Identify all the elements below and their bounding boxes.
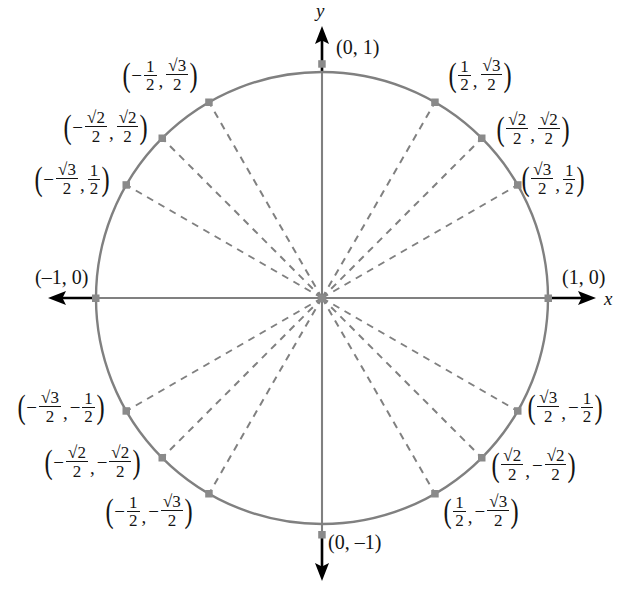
minus-sign: − (131, 66, 142, 85)
fraction-root3-over-2: √3 2 (531, 162, 553, 198)
point-label-neg1-0: (–1, 0) (35, 266, 88, 289)
point-label-1-0: (1, 0) (562, 266, 605, 289)
point-label-0-neg1: (0, –1) (328, 531, 381, 554)
point-label-30: ( √3 2 , 1 2 ) (521, 162, 586, 198)
paren-open: ( (492, 451, 500, 478)
y-axis-label: y (316, 0, 324, 22)
fraction-one-half: 1 2 (458, 58, 471, 94)
fraction-root2-over-2: √2 2 (85, 110, 107, 146)
point-marker-120 (205, 99, 213, 107)
point-marker-90 (318, 60, 326, 67)
paren-close: ) (190, 61, 198, 88)
minus-sign: − (568, 398, 579, 417)
fraction-one-half: 1 2 (82, 390, 95, 426)
point-marker-210 (123, 407, 131, 415)
fraction-one-half: 1 2 (127, 494, 140, 530)
fraction-one-half: 1 2 (453, 494, 466, 530)
point-marker-135 (159, 135, 167, 143)
comma: , (90, 458, 95, 477)
comma: , (525, 461, 530, 480)
point-label-0-1: (0, 1) (336, 36, 379, 59)
paren-open: ( (522, 165, 530, 192)
fraction-root3-over-2: √3 2 (166, 58, 188, 94)
origin-marker (318, 295, 326, 303)
point-label-300: ( 1 2 , − √3 2 ) (443, 494, 519, 530)
point-marker-60 (431, 99, 439, 107)
fraction-root3-over-2: √3 2 (537, 390, 559, 426)
paren-open: ( (444, 497, 452, 524)
dashed-radius-240 (209, 298, 322, 494)
fraction-root2-over-2: √2 2 (117, 110, 139, 146)
minus-sign: − (43, 170, 54, 189)
dashed-radius-225 (162, 298, 322, 458)
fraction-root2-over-2: √2 2 (501, 448, 523, 484)
point-label-240: ( − 1 2 , − √3 2 ) (105, 494, 193, 530)
paren-open: ( (45, 448, 53, 475)
point-label-60: ( 1 2 , √3 2 ) (448, 58, 513, 94)
minus-sign: − (475, 502, 486, 521)
comma: , (468, 507, 473, 526)
point-marker-0 (545, 295, 553, 303)
paren-open: ( (497, 115, 505, 142)
comma: , (63, 403, 68, 422)
fraction-root3-over-2: √3 2 (161, 494, 183, 530)
paren-close: ) (511, 497, 519, 524)
fraction-root3-over-2: √3 2 (481, 58, 503, 94)
paren-close: ) (102, 165, 110, 192)
point-marker-180 (92, 295, 100, 303)
minus-sign: − (114, 502, 125, 521)
comma: , (142, 507, 147, 526)
fraction-one-half: 1 2 (563, 162, 576, 198)
point-label-315: ( √2 2 , − √2 2 ) (491, 448, 577, 484)
point-label-120: ( − 1 2 , √3 2 ) (122, 58, 198, 94)
fraction-root2-over-2: √2 2 (66, 445, 88, 481)
paren-close: ) (184, 497, 192, 524)
paren-close: ) (133, 448, 141, 475)
paren-open: ( (106, 497, 114, 524)
point-label-210: ( − √3 2 , − 1 2 ) (17, 390, 105, 426)
dashed-radius-210 (126, 298, 322, 411)
fraction-root2-over-2: √2 2 (545, 448, 567, 484)
unit-circle-figure: y x (0, 1) (1, 0) (–1, 0) (0, –1) ( 1 2 … (0, 0, 631, 597)
minus-sign: − (532, 456, 543, 475)
fraction-one-half: 1 2 (581, 390, 594, 426)
comma: , (473, 71, 478, 90)
fraction-root2-over-2: √2 2 (109, 445, 131, 481)
dashed-radius-120 (209, 102, 322, 298)
fraction-root3-over-2: √3 2 (56, 162, 78, 198)
comma: , (109, 123, 114, 142)
unit-circle-svg (0, 0, 631, 597)
x-axis-label: x (604, 288, 612, 310)
paren-open: ( (123, 61, 131, 88)
paren-close: ) (140, 113, 148, 140)
comma: , (555, 175, 560, 194)
point-marker-300 (431, 490, 439, 498)
minus-sign: − (72, 118, 83, 137)
fraction-root2-over-2: √2 2 (538, 112, 560, 148)
fraction-root3-over-2: √3 2 (487, 494, 509, 530)
dashed-radius-330 (322, 298, 518, 411)
point-label-330: ( √3 2 , − 1 2 ) (527, 390, 603, 426)
point-label-45: ( √2 2 , √2 2 ) (496, 112, 570, 148)
paren-open: ( (35, 165, 43, 192)
fraction-root3-over-2: √3 2 (39, 390, 61, 426)
minus-sign: − (26, 398, 37, 417)
paren-close: ) (595, 393, 603, 420)
minus-sign: − (97, 453, 108, 472)
dashed-radius-300 (322, 298, 435, 494)
fraction-one-half: 1 2 (88, 162, 101, 198)
dashed-radius-60 (322, 102, 435, 298)
comma: , (530, 125, 535, 144)
fraction-one-half: 1 2 (144, 58, 157, 94)
dashed-radius-30 (322, 185, 518, 298)
comma: , (159, 71, 164, 90)
point-marker-225 (159, 454, 167, 462)
paren-open: ( (449, 61, 457, 88)
comma: , (80, 175, 85, 194)
minus-sign: − (148, 502, 159, 521)
minus-sign: − (70, 398, 81, 417)
dashed-radius-150 (126, 185, 322, 298)
paren-close: ) (577, 165, 585, 192)
point-marker-240 (205, 490, 213, 498)
point-marker-150 (123, 181, 131, 189)
